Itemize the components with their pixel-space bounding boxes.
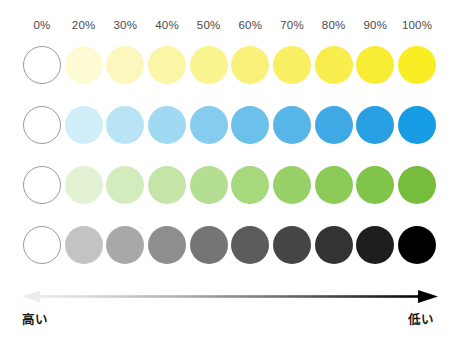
swatch-green-70 bbox=[273, 166, 311, 204]
swatch-yellow-20 bbox=[65, 46, 103, 84]
swatch-grayscale-80 bbox=[315, 226, 353, 264]
swatch-grayscale-20 bbox=[65, 226, 103, 264]
swatch-grayscale-100 bbox=[398, 226, 436, 264]
swatch-blue-100 bbox=[398, 106, 436, 144]
axis-label-low: 低い bbox=[408, 312, 434, 328]
swatch-yellow-0 bbox=[23, 46, 61, 84]
pct-label-100: 100% bbox=[397, 17, 437, 33]
swatch-yellow-100 bbox=[398, 46, 436, 84]
swatch-grayscale-30 bbox=[106, 226, 144, 264]
swatch-green-90 bbox=[356, 166, 394, 204]
swatch-row-blue bbox=[0, 101, 456, 149]
swatch-blue-30 bbox=[106, 106, 144, 144]
swatch-blue-0 bbox=[23, 106, 61, 144]
swatch-green-100 bbox=[398, 166, 436, 204]
pct-label-20: 20% bbox=[64, 17, 104, 33]
swatch-yellow-70 bbox=[273, 46, 311, 84]
pct-label-90: 90% bbox=[355, 17, 395, 33]
swatch-green-40 bbox=[148, 166, 186, 204]
swatch-grayscale-0 bbox=[23, 226, 61, 264]
swatch-blue-90 bbox=[356, 106, 394, 144]
swatch-row-yellow bbox=[0, 41, 456, 89]
swatch-blue-60 bbox=[231, 106, 269, 144]
pct-label-70: 70% bbox=[272, 17, 312, 33]
axis-label-high: 高い bbox=[22, 312, 48, 328]
swatch-grayscale-90 bbox=[356, 226, 394, 264]
swatch-yellow-60 bbox=[231, 46, 269, 84]
swatch-green-50 bbox=[190, 166, 228, 204]
swatch-blue-80 bbox=[315, 106, 353, 144]
pct-label-60: 60% bbox=[230, 17, 270, 33]
swatch-row-grayscale bbox=[0, 221, 456, 269]
swatch-green-0 bbox=[23, 166, 61, 204]
swatch-green-60 bbox=[231, 166, 269, 204]
double-arrow-icon bbox=[0, 286, 456, 310]
swatch-green-20 bbox=[65, 166, 103, 204]
pct-label-80: 80% bbox=[314, 17, 354, 33]
percentage-header-row: 0%20%30%40%50%60%70%80%90%100% bbox=[0, 17, 456, 33]
swatch-grayscale-50 bbox=[190, 226, 228, 264]
pct-label-30: 30% bbox=[105, 17, 145, 33]
swatch-blue-20 bbox=[65, 106, 103, 144]
swatch-yellow-90 bbox=[356, 46, 394, 84]
swatch-yellow-30 bbox=[106, 46, 144, 84]
swatch-yellow-50 bbox=[190, 46, 228, 84]
swatch-blue-70 bbox=[273, 106, 311, 144]
swatch-blue-50 bbox=[190, 106, 228, 144]
swatch-green-30 bbox=[106, 166, 144, 204]
swatch-row-green bbox=[0, 161, 456, 209]
pct-label-50: 50% bbox=[189, 17, 229, 33]
swatch-green-80 bbox=[315, 166, 353, 204]
pct-label-40: 40% bbox=[147, 17, 187, 33]
swatch-blue-40 bbox=[148, 106, 186, 144]
pct-label-0: 0% bbox=[22, 17, 62, 33]
swatch-yellow-80 bbox=[315, 46, 353, 84]
density-axis: 高い 低い bbox=[0, 286, 456, 342]
swatch-grayscale-70 bbox=[273, 226, 311, 264]
swatch-grayscale-60 bbox=[231, 226, 269, 264]
opacity-swatch-chart: 0%20%30%40%50%60%70%80%90%100% 高い 低い bbox=[0, 0, 456, 342]
swatch-grayscale-40 bbox=[148, 226, 186, 264]
swatch-yellow-40 bbox=[148, 46, 186, 84]
